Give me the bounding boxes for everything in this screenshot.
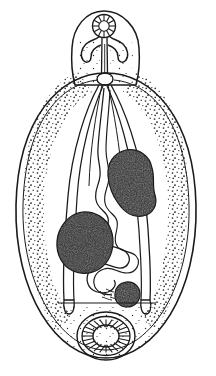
oesophagus-right bbox=[107, 37, 108, 74]
oral-sucker-inner bbox=[99, 21, 109, 31]
oesophagus-left bbox=[102, 37, 103, 74]
anatomy-illustration bbox=[0, 0, 216, 376]
figure-root bbox=[0, 0, 216, 376]
body-region bbox=[16, 66, 200, 360]
testis-posterior bbox=[108, 150, 156, 217]
testis-anterior bbox=[57, 212, 113, 273]
vitellaria-left bbox=[16, 66, 106, 346]
